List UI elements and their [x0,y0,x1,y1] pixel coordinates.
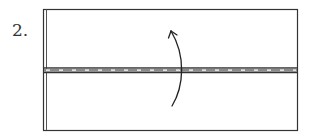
fold-diagram [0,0,314,139]
fold-band [44,68,297,73]
